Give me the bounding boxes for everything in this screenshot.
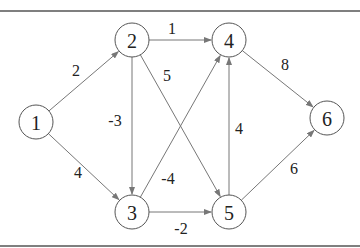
node-1: 1 <box>19 105 53 139</box>
edge-weight-label: 4 <box>74 164 82 181</box>
edge-weight-label: -4 <box>161 170 174 187</box>
edge-5-6 <box>241 130 314 200</box>
edge-weight-label: -3 <box>108 112 121 129</box>
node-label: 6 <box>322 108 332 130</box>
node-label: 2 <box>127 30 137 52</box>
edge-weight-label: 8 <box>281 56 289 73</box>
node-5: 5 <box>212 195 246 229</box>
edges-group <box>48 40 314 212</box>
edge-weight-label: 5 <box>163 67 171 84</box>
edge-labels-group: 241-35-4-2486 <box>72 20 298 237</box>
graph-diagram: 241-35-4-2486 123456 <box>0 0 360 248</box>
edge-arrow-icon <box>241 130 314 200</box>
edge-weight-label: 1 <box>168 20 176 37</box>
edge-weight-label: 2 <box>72 62 80 79</box>
node-4: 4 <box>212 23 246 57</box>
node-6: 6 <box>310 101 344 135</box>
nodes-group: 123456 <box>19 23 344 229</box>
edge-1-2 <box>49 52 118 111</box>
node-2: 2 <box>115 23 149 57</box>
node-label: 1 <box>31 112 41 134</box>
edge-arrow-icon <box>242 51 313 107</box>
node-label: 4 <box>224 30 234 52</box>
edge-arrow-icon <box>49 52 118 111</box>
edge-weight-label: 4 <box>235 120 243 137</box>
node-label: 3 <box>127 202 137 224</box>
edge-1-3 <box>48 134 118 200</box>
edge-arrow-icon <box>48 134 118 200</box>
node-label: 5 <box>224 202 234 224</box>
node-3: 3 <box>115 195 149 229</box>
edge-weight-label: -2 <box>174 220 187 237</box>
edge-weight-label: 6 <box>290 160 298 177</box>
edge-4-6 <box>242 51 313 107</box>
